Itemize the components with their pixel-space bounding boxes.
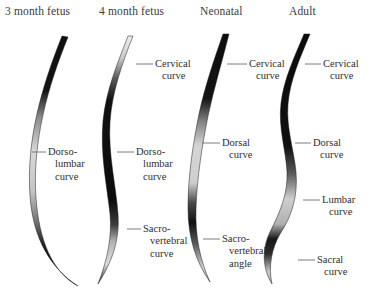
callout-line-2: curve xyxy=(322,206,355,218)
callout-line-2: vertebral xyxy=(222,245,266,257)
callout-line-1: Lumbar xyxy=(322,194,355,205)
vertebral-column-development-figure: 3 month fetus 4 month fetus Neonatal Adu… xyxy=(0,0,379,294)
callout-line-1: Dorsal xyxy=(222,137,250,148)
callout-line-3: curve xyxy=(136,171,173,183)
callout-line-1: Sacro- xyxy=(222,233,249,244)
callout-line-1: Dorso- xyxy=(48,146,77,157)
callout-line-3: curve xyxy=(143,248,187,260)
callout-sacro-vertebral-angle-neonatal: Sacro- vertebral angle xyxy=(222,233,266,270)
callout-dorso-lumbar-curve-3-month: Dorso- lumbar curve xyxy=(48,146,85,183)
callout-line-1: Cervical xyxy=(249,58,285,69)
spine-4-month-fetus xyxy=(98,36,133,284)
callout-line-1: Dorso- xyxy=(136,146,165,157)
callout-line-2: vertebral xyxy=(143,235,187,247)
callout-line-1: Cervical xyxy=(155,58,191,69)
callout-line-2: lumbar xyxy=(48,158,85,170)
callout-line-1: Sacro- xyxy=(143,223,170,234)
callout-line-1: Sacral xyxy=(317,254,343,265)
callout-line-2: curve xyxy=(317,266,347,278)
callout-line-1: Cervical xyxy=(323,58,359,69)
callout-cervical-curve-adult: Cervical curve xyxy=(323,58,359,83)
callout-sacral-curve-adult: Sacral curve xyxy=(317,254,347,279)
callout-line-2: curve xyxy=(249,70,285,82)
callout-line-2: curve xyxy=(222,149,252,161)
callout-dorsal-curve-neonatal: Dorsal curve xyxy=(222,137,252,162)
callout-line-2: curve xyxy=(313,149,343,161)
callout-dorsal-curve-adult: Dorsal curve xyxy=(313,137,343,162)
callout-cervical-curve-4-month: Cervical curve xyxy=(155,58,191,83)
callout-line-3: angle xyxy=(222,258,266,270)
callout-line-2: lumbar xyxy=(136,158,173,170)
callout-line-2: curve xyxy=(155,70,191,82)
callout-sacro-vertebral-curve-4-month: Sacro- vertebral curve xyxy=(143,223,187,260)
callout-line-2: curve xyxy=(323,70,359,82)
callout-cervical-curve-neonatal: Cervical curve xyxy=(249,58,285,83)
callout-line-3: curve xyxy=(48,171,85,183)
callout-lumbar-curve-adult: Lumbar curve xyxy=(322,194,355,219)
callout-dorso-lumbar-curve-4-month: Dorso- lumbar curve xyxy=(136,146,173,183)
callout-line-1: Dorsal xyxy=(313,137,341,148)
